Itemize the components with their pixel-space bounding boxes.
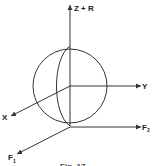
f1-subscript: 1 <box>13 158 16 164</box>
sphere-axes-diagram: Z + R Y X F 2 F 1 Fig. 17 <box>0 0 152 166</box>
y-axis-label: Y <box>142 82 148 91</box>
f2-subscript: 2 <box>147 127 150 133</box>
z-axis-label: Z + R <box>74 4 94 13</box>
figure-caption: Fig. 17 <box>60 162 86 166</box>
x-axis-label: X <box>2 113 8 122</box>
f1-vector <box>17 127 70 154</box>
x-axis <box>11 86 70 116</box>
sphere-meridian <box>57 46 71 126</box>
